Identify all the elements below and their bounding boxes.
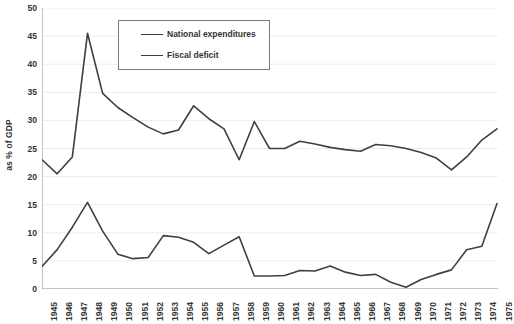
x-tick-label: 1962 bbox=[306, 302, 316, 321]
x-tick-label: 1974 bbox=[488, 302, 498, 321]
y-tick-label: 20 bbox=[28, 172, 37, 182]
x-tick-label: 1965 bbox=[352, 302, 362, 321]
x-tick-label: 1963 bbox=[322, 302, 332, 321]
x-tick-label: 1967 bbox=[382, 302, 392, 321]
x-tick-label: 1954 bbox=[185, 302, 195, 321]
x-tick-label: 1949 bbox=[109, 302, 119, 321]
x-tick-label: 1945 bbox=[49, 302, 59, 321]
x-tick-label: 1966 bbox=[367, 302, 377, 321]
y-tick-label: 15 bbox=[28, 200, 37, 210]
x-tick-label: 1947 bbox=[79, 302, 89, 321]
x-tick-label: 1953 bbox=[170, 302, 180, 321]
y-axis-title: as % of GDP bbox=[0, 0, 18, 290]
legend-line-icon bbox=[141, 34, 163, 35]
legend-label: Fiscal deficit bbox=[167, 50, 219, 60]
legend-line-icon bbox=[141, 55, 163, 56]
legend-entry-fiscal-deficit: Fiscal deficit bbox=[141, 50, 219, 60]
y-tick-label: 30 bbox=[28, 115, 37, 125]
x-axis-tick-labels: 1945194619471948194919501951195219531954… bbox=[42, 291, 498, 324]
y-axis-tick-labels: 05101520253035404550 bbox=[18, 8, 40, 289]
x-tick-label: 1971 bbox=[443, 302, 453, 321]
x-tick-label: 1959 bbox=[261, 302, 271, 321]
x-tick-label: 1960 bbox=[276, 302, 286, 321]
y-tick-label: 10 bbox=[28, 228, 37, 238]
x-tick-label: 1946 bbox=[64, 302, 74, 321]
x-tick-label: 1952 bbox=[155, 302, 165, 321]
y-tick-label: 35 bbox=[28, 87, 37, 97]
y-tick-label: 40 bbox=[28, 59, 37, 69]
y-tick-label: 25 bbox=[28, 144, 37, 154]
x-tick-label: 1964 bbox=[337, 302, 347, 321]
x-tick-label: 1969 bbox=[413, 302, 423, 321]
x-tick-label: 1957 bbox=[231, 302, 241, 321]
x-tick-label: 1948 bbox=[94, 302, 104, 321]
legend-label: National expenditures bbox=[167, 29, 256, 39]
y-tick-label: 45 bbox=[28, 31, 37, 41]
y-tick-label: 5 bbox=[32, 256, 37, 266]
x-tick-label: 1956 bbox=[215, 302, 225, 321]
x-tick-label: 1975 bbox=[504, 302, 514, 321]
legend: National expenditures Fiscal deficit bbox=[118, 20, 270, 70]
x-tick-label: 1970 bbox=[428, 302, 438, 321]
x-tick-label: 1951 bbox=[140, 302, 150, 321]
plot-svg bbox=[42, 8, 498, 289]
y-tick-label: 50 bbox=[28, 3, 37, 13]
x-tick-label: 1958 bbox=[246, 302, 256, 321]
plot-area bbox=[42, 8, 498, 289]
x-tick-label: 1973 bbox=[473, 302, 483, 321]
x-tick-label: 1968 bbox=[397, 302, 407, 321]
x-tick-label: 1950 bbox=[124, 302, 134, 321]
x-tick-label: 1972 bbox=[458, 302, 468, 321]
y-axis-title-text: as % of GDP bbox=[4, 119, 14, 171]
x-tick-label: 1961 bbox=[291, 302, 301, 321]
series-line bbox=[42, 202, 497, 287]
y-tick-label: 0 bbox=[32, 284, 37, 294]
x-tick-label: 1955 bbox=[200, 302, 210, 321]
legend-entry-national-expenditures: National expenditures bbox=[141, 29, 256, 39]
